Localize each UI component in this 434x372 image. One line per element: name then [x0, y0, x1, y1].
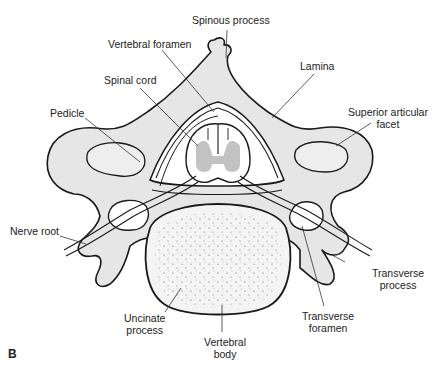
- vertebra-diagram: [0, 0, 434, 372]
- label-nerve-root: Nerve root: [10, 225, 59, 237]
- label-pedicle: Pedicle: [50, 107, 84, 119]
- vertebral-body-shape: [146, 204, 291, 315]
- label-vertebral-body: Vertebral body: [204, 336, 246, 360]
- label-superior-articular-facet: Superior articular facet: [348, 106, 428, 130]
- label-uncinate-process: Uncinate process: [124, 312, 165, 336]
- panel-letter: B: [8, 347, 17, 361]
- label-transverse-foramen: Transverse foramen: [302, 310, 354, 334]
- spinal-cord-shape: [186, 124, 250, 183]
- label-lamina: Lamina: [300, 60, 334, 72]
- label-transverse-process: Transverse process: [372, 267, 424, 291]
- label-spinal-cord: Spinal cord: [104, 74, 157, 86]
- label-spinous-process: Spinous process: [192, 14, 270, 26]
- label-vertebral-foramen: Vertebral foramen: [108, 38, 191, 50]
